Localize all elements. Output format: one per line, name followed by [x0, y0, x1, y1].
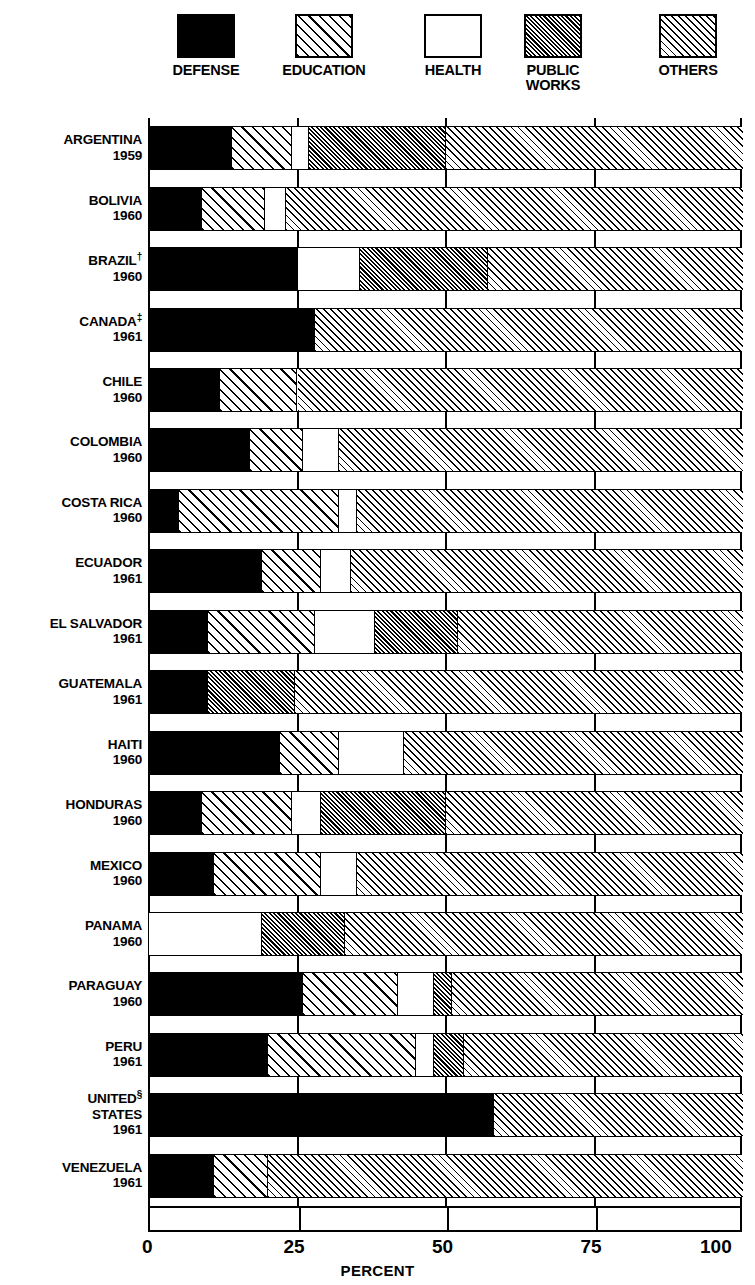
bar-segment-education	[268, 1034, 417, 1076]
country-name: VENEZUELA	[62, 1160, 142, 1175]
bar-segment-others	[404, 732, 743, 774]
bar-segment-education	[262, 550, 321, 592]
bar-segment-others	[315, 309, 743, 351]
country-name: BOLIVIA	[89, 193, 142, 208]
country-name: HONDURAS	[66, 797, 142, 812]
bar-segment-defense	[149, 369, 220, 411]
bar-segment-others	[488, 248, 743, 290]
country-name: ARGENTINA	[64, 132, 142, 147]
bar-segment-health	[315, 611, 374, 653]
category-label-united-states: UNITED§STATES1961	[2, 1091, 142, 1138]
category-year: 1961	[2, 1122, 142, 1138]
bar-track	[148, 1154, 742, 1198]
bar-segment-public	[434, 973, 452, 1015]
bar-segment-others	[345, 913, 743, 955]
bar-segment-defense	[149, 550, 262, 592]
bar-segment-health	[265, 188, 286, 230]
x-axis-title: PERCENT	[0, 1262, 755, 1279]
bar-segment-others	[494, 1094, 743, 1136]
bar-segment-others	[458, 611, 743, 653]
category-label-panama: PANAMA1960	[2, 918, 142, 949]
country-name: COSTA RICA	[62, 495, 143, 510]
bar-row	[148, 670, 742, 714]
country-name: HAITI	[108, 737, 142, 752]
stacked-bar-chart: DEFENSEEDUCATIONHEALTHPUBLIC WORKSOTHERS…	[0, 0, 755, 1285]
category-axis-labels: ARGENTINA1959BOLIVIA1960BRAZIL†1960CANAD…	[0, 118, 142, 1206]
category-year: 1960	[2, 390, 142, 406]
bar-segment-others	[339, 429, 743, 471]
bar-segment-education	[214, 1155, 267, 1197]
category-label-haiti: HAITI1960	[2, 737, 142, 768]
legend-label-education: EDUCATION	[268, 63, 380, 78]
bar-segment-health	[339, 732, 404, 774]
category-label-venezuela: VENEZUELA1961	[2, 1160, 142, 1191]
bar-segment-defense	[149, 671, 208, 713]
bar-row	[148, 126, 742, 170]
category-year: 1960	[2, 813, 142, 829]
category-year: 1959	[2, 148, 142, 164]
category-label-canada: CANADA‡1961	[2, 314, 142, 345]
bar-segment-others	[446, 792, 743, 834]
bar-track	[148, 912, 742, 956]
bar-segment-health	[398, 973, 434, 1015]
category-year: 1961	[2, 329, 142, 345]
bar-segment-defense	[149, 611, 208, 653]
category-label-guatemala: GUATEMALA1961	[2, 676, 142, 707]
category-label-colombia: COLOMBIA1960	[2, 434, 142, 465]
category-label-paraguay: PARAGUAY1960	[2, 978, 142, 1009]
category-year: 1960	[2, 934, 142, 950]
x-tick-25	[299, 1208, 301, 1230]
legend-label-others: OTHERS	[632, 63, 744, 78]
bar-segment-defense	[149, 127, 232, 169]
category-year: 1961	[2, 571, 142, 587]
plot-area	[148, 118, 742, 1206]
legend-item-health: HEALTH	[397, 14, 509, 78]
x-tick-label-0: 0	[142, 1236, 153, 1258]
bar-track	[148, 852, 742, 896]
category-label-honduras: HONDURAS1960	[2, 797, 142, 828]
bar-track	[148, 368, 742, 412]
bar-track	[148, 670, 742, 714]
bar-segment-public	[321, 792, 446, 834]
country-name: BRAZIL†	[88, 253, 142, 268]
bar-segment-defense	[149, 1094, 494, 1136]
bar-segment-defense	[149, 248, 298, 290]
legend-label-public: PUBLIC WORKS	[510, 63, 596, 93]
bar-row	[148, 368, 742, 412]
legend-swatch-health	[424, 14, 482, 58]
bar-track	[148, 791, 742, 835]
legend-swatch-others	[659, 14, 717, 58]
legend-item-defense: DEFENSE	[150, 14, 262, 78]
bar-segment-defense	[149, 973, 303, 1015]
bar-segment-education	[179, 490, 339, 532]
bar-row	[148, 549, 742, 593]
bar-segment-health	[321, 550, 351, 592]
country-name: COLOMBIA	[70, 434, 142, 449]
chart-legend: DEFENSEEDUCATIONHEALTHPUBLIC WORKSOTHERS	[150, 14, 750, 106]
bar-track	[148, 308, 742, 352]
bar-track	[148, 610, 742, 654]
bar-segment-public	[434, 1034, 464, 1076]
footnote-marker: §	[137, 1089, 142, 1100]
bar-segment-defense	[149, 1034, 268, 1076]
bar-segment-others	[357, 853, 743, 895]
bar-track	[148, 247, 742, 291]
bar-segment-defense	[149, 429, 250, 471]
country-name: EL SALVADOR	[50, 616, 142, 631]
bar-segment-education	[232, 127, 291, 169]
bar-segment-defense	[149, 1155, 214, 1197]
bar-row	[148, 428, 742, 472]
bar-segment-others	[452, 973, 743, 1015]
bar-segment-defense	[149, 732, 280, 774]
category-label-peru: PERU1961	[2, 1039, 142, 1070]
legend-swatch-defense	[177, 14, 235, 58]
bar-segment-health	[149, 913, 262, 955]
bar-segment-health	[303, 429, 339, 471]
category-year: 1960	[2, 450, 142, 466]
category-year: 1961	[2, 1054, 142, 1070]
category-label-mexico: MEXICO1960	[2, 858, 142, 889]
country-name: PANAMA	[85, 918, 142, 933]
bar-track	[148, 731, 742, 775]
bar-track	[148, 972, 742, 1016]
legend-item-public: PUBLIC WORKS	[510, 14, 596, 93]
